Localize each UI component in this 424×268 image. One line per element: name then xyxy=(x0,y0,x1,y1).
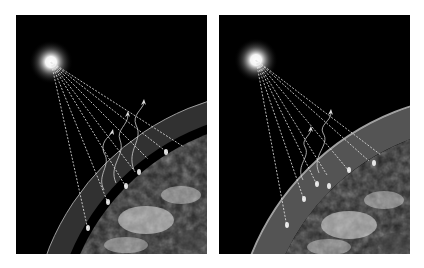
panel-thick-atmosphere xyxy=(219,15,410,254)
greenhouse-illustration-thin xyxy=(16,15,207,254)
greenhouse-illustration-thick xyxy=(219,15,410,254)
panel-thin-atmosphere xyxy=(16,15,207,254)
